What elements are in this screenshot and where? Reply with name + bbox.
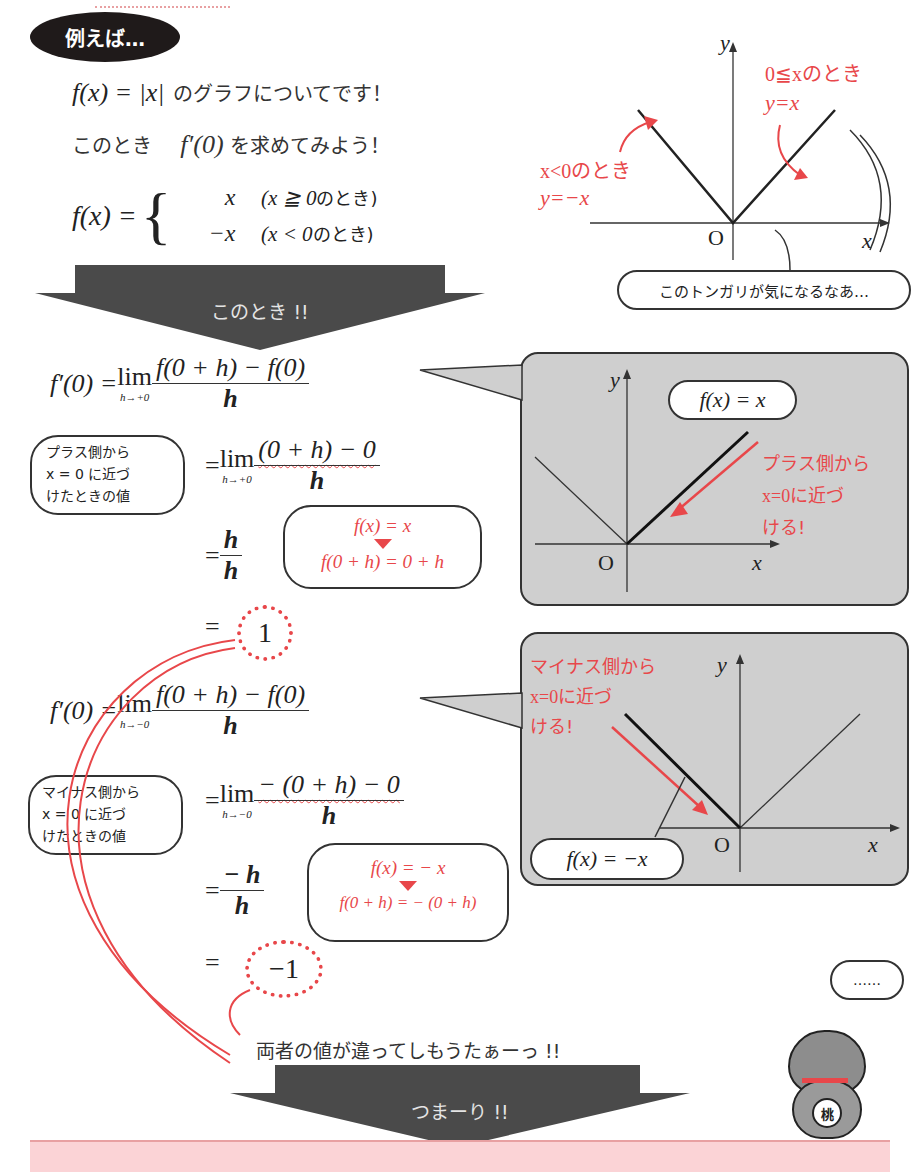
arrow-down-2: つまーり !! [230,1065,690,1147]
cat-speech-bubble: …… [830,960,904,1000]
arrow-2-label: つまーり !! [230,1097,690,1124]
mismatch-text: 両者の値が違ってしもうたぁーっ !! [256,1036,560,1063]
pointing-hand-icon [230,990,250,1035]
cat-mascot: 桃 [770,1020,880,1130]
cat-badge: 桃 [812,1098,842,1128]
conclusion-box [30,1140,890,1172]
